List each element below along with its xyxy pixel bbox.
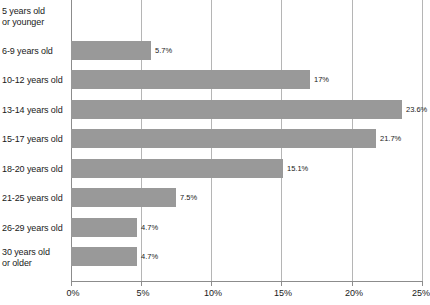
x-tick-label: 5% bbox=[136, 288, 149, 299]
bar bbox=[71, 70, 310, 89]
bar-value-label: 4.7% bbox=[141, 223, 158, 232]
x-tick-label: 20% bbox=[345, 288, 363, 299]
x-tick-mark bbox=[141, 281, 142, 286]
category-label: 10-12 years old bbox=[2, 75, 69, 86]
category-label: 5 years old or younger bbox=[2, 6, 69, 27]
category-label: 18-20 years old bbox=[2, 164, 69, 175]
category-label: 15-17 years old bbox=[2, 134, 69, 145]
bar bbox=[71, 159, 283, 178]
x-tick-mark bbox=[352, 281, 353, 286]
category-label: 21-25 years old bbox=[2, 193, 69, 204]
bar bbox=[71, 247, 137, 266]
category-label: 6-9 years old bbox=[2, 46, 69, 57]
x-tick-mark bbox=[422, 281, 423, 286]
gridline-25 bbox=[422, 0, 423, 281]
category-label: 30 years old or older bbox=[2, 247, 69, 268]
bar bbox=[71, 218, 137, 237]
bar-value-label: 4.7% bbox=[141, 252, 158, 261]
x-tick-label: 10% bbox=[204, 288, 222, 299]
bar-value-label: 7.5% bbox=[180, 193, 197, 202]
x-tick-label: 15% bbox=[274, 288, 292, 299]
x-tick-label: 0% bbox=[66, 288, 79, 299]
x-tick-mark bbox=[71, 281, 72, 286]
category-axis-labels: 5 years old or younger 6-9 years old 10-… bbox=[0, 0, 71, 281]
category-label: 26-29 years old bbox=[2, 223, 69, 234]
bar-value-label: 17% bbox=[314, 75, 329, 84]
x-tick-label: 25% bbox=[412, 288, 430, 299]
bar bbox=[71, 100, 402, 119]
bar-value-label: 21.7% bbox=[380, 134, 401, 143]
bar-value-label: 15.1% bbox=[287, 164, 308, 173]
bar bbox=[71, 188, 176, 207]
bar bbox=[71, 129, 376, 148]
bar-value-label: 5.7% bbox=[155, 46, 172, 55]
x-axis-line bbox=[71, 281, 423, 282]
x-tick-mark bbox=[281, 281, 282, 286]
x-tick-mark bbox=[211, 281, 212, 286]
category-label: 13-14 years old bbox=[2, 105, 69, 116]
bar bbox=[71, 41, 151, 60]
plot-area: 5.7% 17% 23.6% 21.7% 15.1% 7.5% 4.7% 4.7… bbox=[71, 0, 422, 281]
bar-value-label: 23.6% bbox=[406, 105, 427, 114]
